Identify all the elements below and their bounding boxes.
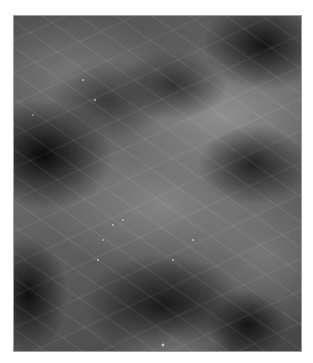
- micrograph-image: [13, 15, 302, 352]
- micrograph-speckles: [13, 15, 302, 352]
